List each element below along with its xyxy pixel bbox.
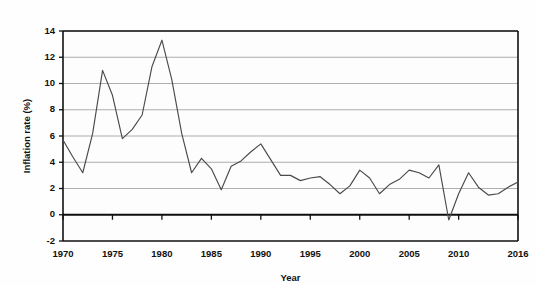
y-tick-label-2: 2 <box>50 182 55 193</box>
x-tick-label-1970: 1970 <box>52 248 73 259</box>
y-tick-label-14: 14 <box>44 25 55 36</box>
y-tick-label-0: 0 <box>50 208 55 219</box>
x-tick-label-1975: 1975 <box>102 248 124 259</box>
y-tick-label-6: 6 <box>50 130 55 141</box>
x-tick-label-1985: 1985 <box>201 248 223 259</box>
x-tick-label-1980: 1980 <box>151 248 172 259</box>
x-tick-label-2000: 2000 <box>349 248 370 259</box>
y-tick-label-10: 10 <box>44 77 55 88</box>
x-tick-label-1995: 1995 <box>300 248 322 259</box>
x-axis-title: Year <box>280 272 300 283</box>
y-tick-label-12: 12 <box>44 51 55 62</box>
x-tick-label-1990: 1990 <box>250 248 271 259</box>
y-axis-title: Inflation rate (%) <box>21 99 32 173</box>
y-tick-labels-group: 14121086420-2 <box>44 25 55 246</box>
x-tick-label-2005: 2005 <box>399 248 421 259</box>
y-tick-label-4: 4 <box>50 156 56 167</box>
y-tick-label--2: -2 <box>47 235 55 246</box>
chart-figure: 14121086420-2 19701975198019851990199520… <box>0 0 536 285</box>
x-tick-label-2016: 2016 <box>507 248 528 259</box>
y-tick-label-8: 8 <box>50 103 55 114</box>
x-tick-labels-group: 1970197519801985199019952000200520102016 <box>52 248 528 259</box>
x-tick-label-2010: 2010 <box>448 248 469 259</box>
inflation-line-chart: 14121086420-2 19701975198019851990199520… <box>0 0 536 285</box>
